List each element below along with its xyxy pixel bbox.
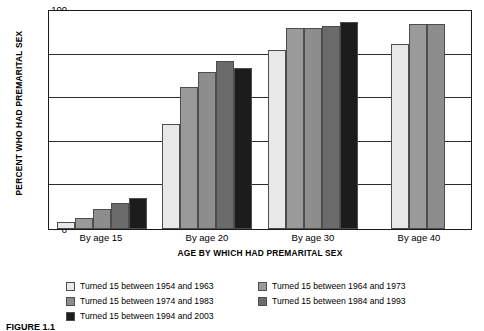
bar-group bbox=[260, 11, 366, 229]
legend-item: Turned 15 between 1994 and 2003 bbox=[66, 310, 252, 323]
legend-label: Turned 15 between 1954 and 1963 bbox=[80, 282, 213, 291]
bar bbox=[304, 28, 322, 229]
bar bbox=[75, 218, 93, 229]
bar bbox=[162, 124, 180, 229]
legend-swatch bbox=[258, 297, 267, 306]
bar bbox=[391, 44, 409, 229]
plot-area bbox=[48, 10, 472, 230]
legend-label: Turned 15 between 1974 and 1983 bbox=[80, 297, 213, 306]
figure-caption: FIGURE 1.1 bbox=[6, 322, 55, 331]
legend-item: Turned 15 between 1954 and 1963 bbox=[66, 280, 252, 293]
legend-label: Turned 15 between 1984 and 1993 bbox=[272, 297, 405, 306]
bar-group bbox=[49, 11, 155, 229]
bar bbox=[340, 22, 358, 229]
bar bbox=[198, 72, 216, 229]
legend-item: Turned 15 between 1984 and 1993 bbox=[258, 295, 444, 308]
legend-item: Turned 15 between 1964 and 1973 bbox=[258, 280, 444, 293]
bar bbox=[129, 198, 147, 229]
chart-figure: PERCENT WHO HAD PREMARITAL SEX 020406080… bbox=[0, 0, 484, 331]
legend-swatch bbox=[66, 312, 75, 321]
bar bbox=[111, 203, 129, 229]
x-axis-tick-label: By age 15 bbox=[48, 232, 154, 243]
bar bbox=[180, 87, 198, 229]
y-axis-title: PERCENT WHO HAD PREMARITAL SEX bbox=[14, 0, 24, 228]
legend-label: Turned 15 between 1964 and 1973 bbox=[272, 282, 405, 291]
bar-groups bbox=[49, 11, 471, 229]
bar bbox=[57, 222, 75, 229]
bar-group bbox=[366, 11, 472, 229]
legend-label: Turned 15 between 1994 and 2003 bbox=[80, 312, 213, 321]
x-axis-tick-label: By age 30 bbox=[260, 232, 366, 243]
bar bbox=[234, 68, 252, 229]
bar-group bbox=[155, 11, 261, 229]
legend-swatch bbox=[66, 297, 75, 306]
bar bbox=[409, 24, 427, 229]
x-axis-title: AGE BY WHICH HAD PREMARITAL SEX bbox=[48, 248, 472, 258]
bar bbox=[216, 61, 234, 229]
bar bbox=[268, 50, 286, 229]
bar bbox=[286, 28, 304, 229]
bar bbox=[93, 209, 111, 229]
x-axis-tick-label: By age 40 bbox=[366, 232, 472, 243]
chart-legend: Turned 15 between 1954 and 1963Turned 15… bbox=[66, 280, 466, 323]
legend-swatch bbox=[66, 282, 75, 291]
legend-swatch bbox=[258, 282, 267, 291]
x-axis-tick-label: By age 20 bbox=[154, 232, 260, 243]
legend-item: Turned 15 between 1974 and 1983 bbox=[66, 295, 252, 308]
bar bbox=[322, 26, 340, 229]
x-axis-tick-labels: By age 15By age 20By age 30By age 40 bbox=[48, 232, 472, 243]
bar bbox=[427, 24, 445, 229]
